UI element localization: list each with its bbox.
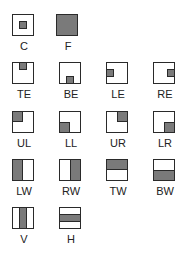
label: RE — [145, 88, 185, 100]
left-wide-icon — [12, 159, 34, 181]
item-lw: LW — [12, 159, 36, 181]
item-h: H — [59, 207, 83, 229]
right-wide-icon — [59, 159, 81, 181]
label: BE — [51, 88, 91, 100]
top-wide-icon — [106, 159, 128, 181]
label: UR — [98, 137, 138, 149]
left-edge-icon — [106, 62, 128, 84]
label: H — [51, 233, 91, 245]
item-ul: UL — [12, 111, 36, 133]
item-c: C — [12, 14, 36, 36]
label: LE — [98, 88, 138, 100]
lower-left-icon — [59, 111, 81, 133]
label: LL — [51, 137, 91, 149]
horizontal-icon — [59, 207, 81, 229]
right-edge-icon — [153, 62, 175, 84]
lower-right-icon — [153, 111, 175, 133]
upper-left-icon — [12, 111, 34, 133]
item-ll: LL — [59, 111, 83, 133]
item-tw: TW — [106, 159, 130, 181]
label: C — [4, 40, 44, 52]
label: BW — [145, 185, 185, 197]
top-edge-icon — [12, 62, 34, 84]
bottom-wide-icon — [153, 159, 175, 181]
label: UL — [4, 137, 44, 149]
bottom-edge-icon — [59, 62, 81, 84]
label: V — [4, 233, 44, 245]
label: RW — [51, 185, 91, 197]
item-re: RE — [153, 62, 177, 84]
item-le: LE — [106, 62, 130, 84]
full-icon — [56, 14, 78, 36]
item-f: F — [56, 14, 80, 36]
item-ur: UR — [106, 111, 130, 133]
item-te: TE — [12, 62, 36, 84]
label: F — [48, 40, 88, 52]
item-bw: BW — [153, 159, 177, 181]
label: LR — [145, 137, 185, 149]
vertical-icon — [12, 207, 34, 229]
label: LW — [4, 185, 44, 197]
item-v: V — [12, 207, 36, 229]
item-rw: RW — [59, 159, 83, 181]
label: TE — [4, 88, 44, 100]
item-lr: LR — [153, 111, 177, 133]
item-be: BE — [59, 62, 83, 84]
upper-right-icon — [106, 111, 128, 133]
label: TW — [98, 185, 138, 197]
center-icon — [12, 14, 34, 36]
